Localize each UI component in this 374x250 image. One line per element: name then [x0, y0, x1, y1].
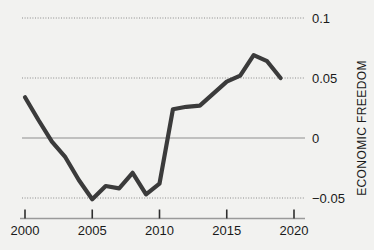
x-tick-label-2015: 2015 [212, 223, 241, 238]
y-axis-title-group: ECONOMIC FREEDOM [355, 60, 369, 196]
y-tick-label-0.05: 0.05 [312, 71, 337, 86]
x-tick-label-2020: 2020 [280, 223, 309, 238]
y-tick-label-0: 0 [312, 131, 319, 146]
x-tick-label-2005: 2005 [78, 223, 107, 238]
x-tick-label-2010: 2010 [145, 223, 174, 238]
x-tick-label-2000: 2000 [11, 223, 40, 238]
y-tick-label-0.1: 0.1 [312, 11, 330, 26]
y-axis-title: ECONOMIC FREEDOM [355, 60, 369, 196]
chart-background [0, 0, 374, 250]
economic-freedom-chart: 0.10.050−0.05 20002005201020152020 ECONO… [0, 0, 374, 250]
y-tick-label--0.05: −0.05 [312, 191, 345, 206]
chart-svg: 0.10.050−0.05 20002005201020152020 ECONO… [0, 0, 374, 250]
